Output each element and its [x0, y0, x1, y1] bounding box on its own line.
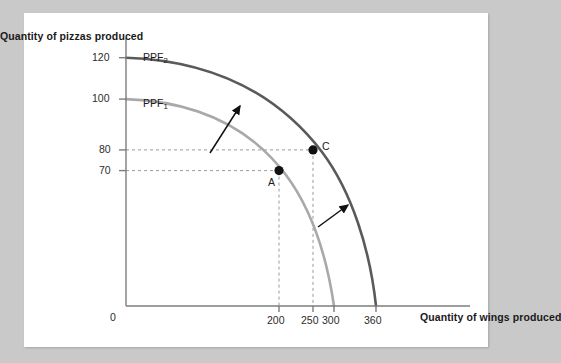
ppf2-label-sub: 2 — [163, 56, 167, 65]
x-axis-title: Quantity of wings produced — [420, 311, 561, 324]
ppf2-curve — [126, 58, 376, 306]
point-c-label: C — [322, 140, 330, 153]
ppf2-label: PPF2 — [143, 51, 168, 64]
ppf1-label: PPF1 — [143, 97, 168, 110]
y-axis-title-text: Quantity of pizzas produced — [0, 30, 143, 42]
x-tick-label-300: 300 — [322, 314, 340, 327]
ppf1-label-text: PPF — [143, 97, 163, 109]
ppf1-label-sub: 1 — [163, 102, 167, 111]
y-tick-label-80: 80 — [99, 143, 111, 156]
ppf2-label-text: PPF — [143, 51, 163, 63]
x-tick-label-360: 360 — [364, 314, 382, 327]
y-tick-label-120: 120 — [92, 51, 110, 64]
y-tick-label-70: 70 — [99, 164, 111, 177]
point-c-marker[interactable] — [308, 145, 317, 154]
point-a-label: A — [268, 176, 275, 189]
x-tick-label-250: 250 — [301, 314, 319, 327]
point-a-marker[interactable] — [274, 166, 283, 175]
shift-arrow-lower — [318, 205, 348, 227]
y-axis-title: Quantity of pizzas produced — [0, 30, 118, 43]
origin-label: 0 — [110, 311, 116, 324]
x-tick-label-200: 200 — [267, 314, 285, 327]
y-tick-label-100: 100 — [92, 92, 110, 105]
x-axis-title-text: Quantity of wings produced — [420, 311, 561, 323]
